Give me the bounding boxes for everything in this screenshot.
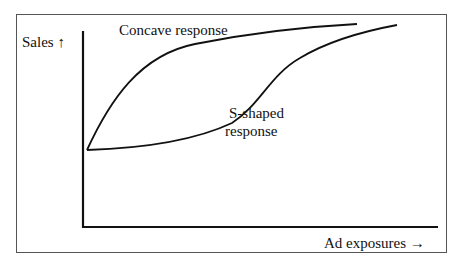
concave-response-label: Concave response (119, 23, 228, 38)
concave-response-curve (87, 24, 357, 150)
s-shaped-label-line2: response (225, 124, 278, 139)
x-axis-label: Ad exposures → (324, 236, 425, 251)
y-axis-label: Sales ↑ (22, 35, 65, 50)
s-shaped-label-line1: S-shaped (229, 106, 284, 121)
